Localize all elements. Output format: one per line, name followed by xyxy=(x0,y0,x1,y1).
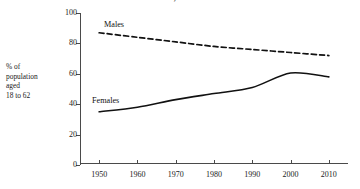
series-plot xyxy=(80,13,348,165)
y-axis-caption: % of population aged 18 to 62 xyxy=(6,62,58,100)
y-tick-label: 60 xyxy=(69,68,77,79)
series-line-females xyxy=(99,73,329,112)
series-line-males xyxy=(99,33,329,56)
y-axis-caption-line-3: aged xyxy=(6,81,58,91)
y-tick-label: 80 xyxy=(69,37,77,48)
y-tick-label: 0 xyxy=(73,159,77,170)
x-tick-label: 1980 xyxy=(206,169,222,180)
chart-figure: Women, 1950-2010 % of population aged 18… xyxy=(0,0,360,189)
x-tick-label: 1990 xyxy=(244,169,260,180)
x-tick-label: 1960 xyxy=(129,169,145,180)
y-axis-caption-line-2: population xyxy=(6,72,58,82)
y-tick-label: 20 xyxy=(69,129,77,140)
y-tick-label: 100 xyxy=(65,7,77,18)
y-axis-caption-line-4: 18 to 62 xyxy=(6,91,58,101)
series-label-females: Females xyxy=(92,96,119,106)
y-tick-label: 40 xyxy=(69,98,77,109)
x-tick-label: 2000 xyxy=(283,169,299,180)
plot-area: 020406080100 195019601970198019902000201… xyxy=(80,13,348,164)
x-tick-label: 2010 xyxy=(321,169,337,180)
y-axis-caption-line-1: % of xyxy=(6,62,58,72)
series-label-males: Males xyxy=(104,20,124,30)
x-tick-label: 1970 xyxy=(168,169,184,180)
x-tick-label: 1950 xyxy=(91,169,107,180)
chart-title: Women, 1950-2010 xyxy=(0,0,360,2)
